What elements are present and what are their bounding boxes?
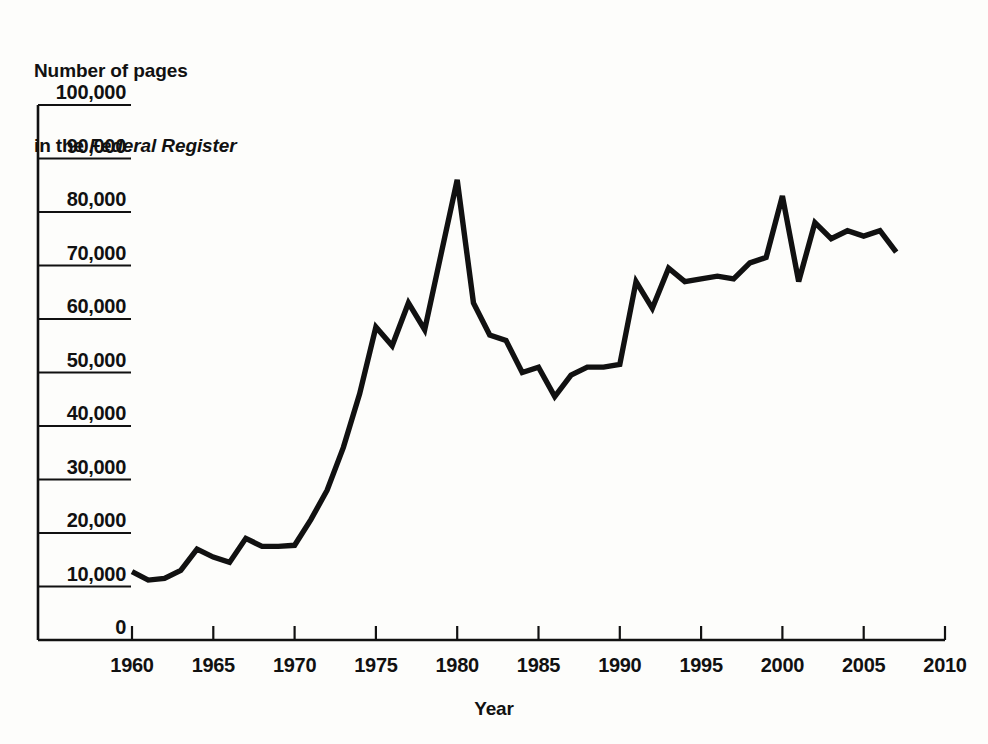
y-axis-tick-label: 100,000 xyxy=(0,81,126,104)
y-axis-tick-label: 20,000 xyxy=(0,509,126,532)
x-axis-tick-label: 1960 xyxy=(87,654,177,677)
y-axis-tick-label: 50,000 xyxy=(0,349,126,372)
chart-figure: Number of pages in the Federal Register … xyxy=(0,0,988,744)
x-axis-tick-label: 1995 xyxy=(656,654,746,677)
x-axis-tick-label: 2010 xyxy=(900,654,988,677)
y-axis-tick-label: 40,000 xyxy=(0,402,126,425)
data-series-group xyxy=(132,180,896,580)
x-axis-tick-label: 1990 xyxy=(575,654,665,677)
y-axis-tick-label: 0 xyxy=(0,616,126,639)
x-axis-tick-label: 1985 xyxy=(494,654,584,677)
x-axis-tick-label: 1975 xyxy=(331,654,421,677)
x-axis-title: Year xyxy=(0,698,988,720)
x-axis-tick-label: 1965 xyxy=(168,654,258,677)
y-axis-tick-label: 90,000 xyxy=(0,135,126,158)
x-axis-tick-label: 1980 xyxy=(412,654,502,677)
x-axis-tick-label: 1970 xyxy=(250,654,340,677)
x-axis-tick-label: 2005 xyxy=(819,654,909,677)
x-axis-tick-label: 2000 xyxy=(737,654,827,677)
axis-lines xyxy=(38,105,945,640)
y-axis-tick-label: 70,000 xyxy=(0,242,126,265)
y-axis-tick-label: 60,000 xyxy=(0,295,126,318)
chart-plot-area xyxy=(0,0,988,744)
y-axis-tick-label: 10,000 xyxy=(0,563,126,586)
x-axis-ticks xyxy=(132,626,945,640)
y-axis-tick-label: 30,000 xyxy=(0,456,126,479)
y-axis-tick-label: 80,000 xyxy=(0,188,126,211)
